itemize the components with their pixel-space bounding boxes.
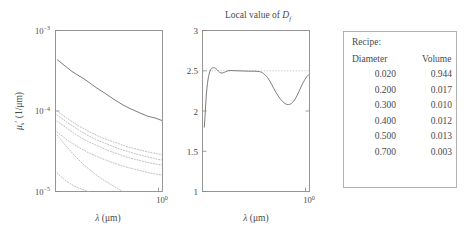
recipe-col-header-diameter: Diameter xyxy=(352,54,388,64)
left-plot-series-group xyxy=(57,60,162,193)
recipe-row: 0.400 0.012 xyxy=(375,116,453,126)
left-plot-frame xyxy=(56,31,163,192)
recipe-row: 0.700 0.003 xyxy=(375,147,453,157)
series-component-0400 xyxy=(57,132,162,175)
series-component-0200 xyxy=(57,115,162,160)
middle-panel-title: Local value of Df xyxy=(225,10,292,22)
recipe-col-header-volume: Volume xyxy=(422,54,451,64)
left-xtick-label-1e0: 100 xyxy=(156,195,168,206)
recipe-cell-diameter: 0.400 xyxy=(375,116,397,126)
recipe-cell-volume: 0.013 xyxy=(431,131,453,141)
left-yaxis-title: μs′ (1/μm) xyxy=(14,92,25,131)
recipe-cell-diameter: 0.020 xyxy=(375,69,397,79)
left-ytick-label-1e-5: 10−5 xyxy=(35,186,50,197)
middle-panel: Local value of Df 3 2.5 2 1.5 1 100 λ (μ… xyxy=(187,10,315,224)
figure-container: 10−3 10−4 10−5 100 μs′ (1/μm) λ (μm) Loc… xyxy=(0,0,468,244)
middle-xtick-label-1e0: 100 xyxy=(303,195,315,206)
series-component-0700 xyxy=(57,173,90,192)
recipe-row: 0.200 0.017 xyxy=(375,85,453,95)
recipe-panel: Recipe: Diameter Volume 0.020 0.944 0.20… xyxy=(344,32,457,188)
series-total xyxy=(57,60,162,121)
recipe-cell-volume: 0.010 xyxy=(431,100,453,110)
recipe-cell-volume: 0.012 xyxy=(431,116,453,126)
middle-xaxis-title: λ (μm) xyxy=(242,213,268,224)
recipe-cell-diameter: 0.700 xyxy=(375,147,397,157)
recipe-row: 0.020 0.944 xyxy=(375,69,453,79)
middle-ytick-label-2p5: 2.5 xyxy=(187,66,199,76)
recipe-cell-volume: 0.944 xyxy=(431,69,453,79)
middle-plot-frame xyxy=(203,31,310,192)
recipe-row: 0.300 0.010 xyxy=(375,100,453,110)
series-component-0300 xyxy=(57,121,162,165)
recipe-row: 0.500 0.013 xyxy=(375,131,453,141)
middle-ytick-label-3: 3 xyxy=(194,26,199,36)
series-local-df xyxy=(204,68,308,128)
left-ytick-label-1e-3: 10−3 xyxy=(35,25,50,36)
middle-ytick-label-1p5: 1.5 xyxy=(187,147,199,157)
recipe-cell-diameter: 0.300 xyxy=(375,100,397,110)
recipe-cell-volume: 0.003 xyxy=(431,147,453,157)
middle-plot-series-group xyxy=(203,68,309,128)
middle-ytick-label-2: 2 xyxy=(194,107,199,117)
recipe-heading: Recipe: xyxy=(352,37,381,47)
left-xaxis-title: λ (μm) xyxy=(94,213,120,224)
middle-ytick-label-1: 1 xyxy=(194,187,199,197)
recipe-cell-volume: 0.017 xyxy=(431,85,453,95)
recipe-cell-diameter: 0.500 xyxy=(375,131,397,141)
left-panel: 10−3 10−4 10−5 100 μs′ (1/μm) λ (μm) xyxy=(14,25,168,224)
recipe-cell-diameter: 0.200 xyxy=(375,85,397,95)
left-ytick-label-1e-4: 10−4 xyxy=(35,106,50,117)
